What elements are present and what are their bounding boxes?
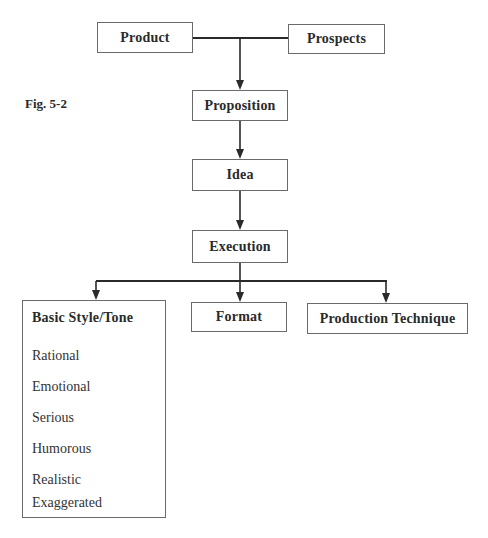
node-format: Format	[191, 302, 287, 332]
node-idea: Idea	[192, 159, 288, 191]
style-item: Realistic	[32, 472, 81, 488]
style-item: Rational	[32, 348, 79, 364]
node-label: Format	[216, 309, 262, 325]
arrow-to-production-technique	[382, 293, 390, 303]
style-item: Humorous	[32, 441, 91, 457]
node-label: Prospects	[307, 31, 366, 47]
arrow-to-basic-style	[92, 290, 100, 300]
node-label: Proposition	[204, 98, 275, 114]
arrow-to-proposition	[236, 80, 244, 90]
node-production-technique: Production Technique	[307, 303, 468, 334]
node-label: Product	[120, 30, 169, 46]
node-execution: Execution	[192, 230, 288, 263]
arrow-to-idea	[236, 149, 244, 159]
style-item: Exaggerated	[32, 495, 102, 511]
node-label: Execution	[209, 239, 271, 255]
node-product: Product	[97, 22, 193, 53]
style-item: Serious	[32, 410, 74, 426]
figure-label: Fig. 5-2	[25, 96, 67, 112]
node-label: Idea	[226, 167, 253, 183]
style-item: Emotional	[32, 379, 90, 395]
node-prospects: Prospects	[288, 24, 385, 54]
arrow-to-execution	[236, 220, 244, 230]
node-label: Production Technique	[320, 311, 456, 327]
node-basic-style-tone: Basic Style/Tone Rational Emotional Seri…	[22, 300, 166, 518]
arrow-to-format	[236, 292, 244, 302]
node-proposition: Proposition	[192, 90, 288, 121]
basic-style-title: Basic Style/Tone	[32, 310, 133, 326]
